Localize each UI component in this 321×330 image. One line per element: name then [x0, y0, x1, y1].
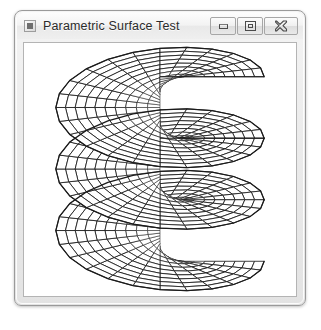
- application-window: Parametric Surface Test: [14, 10, 306, 306]
- maximize-icon: [238, 18, 262, 34]
- title-bar[interactable]: Parametric Surface Test: [17, 13, 303, 39]
- close-button[interactable]: [264, 17, 298, 35]
- minimize-icon: [211, 18, 235, 34]
- maximize-button[interactable]: [237, 17, 263, 35]
- screen-root: Parametric Surface Test: [0, 0, 321, 330]
- helicoid-mesh: [56, 47, 264, 290]
- close-icon: [265, 18, 297, 34]
- render-canvas-area[interactable]: [23, 42, 297, 297]
- minimize-button[interactable]: [210, 17, 236, 35]
- parametric-surface-plot: [24, 43, 296, 296]
- window-title: Parametric Surface Test: [43, 13, 209, 39]
- application-icon: [24, 20, 36, 32]
- caption-button-group: [209, 16, 298, 36]
